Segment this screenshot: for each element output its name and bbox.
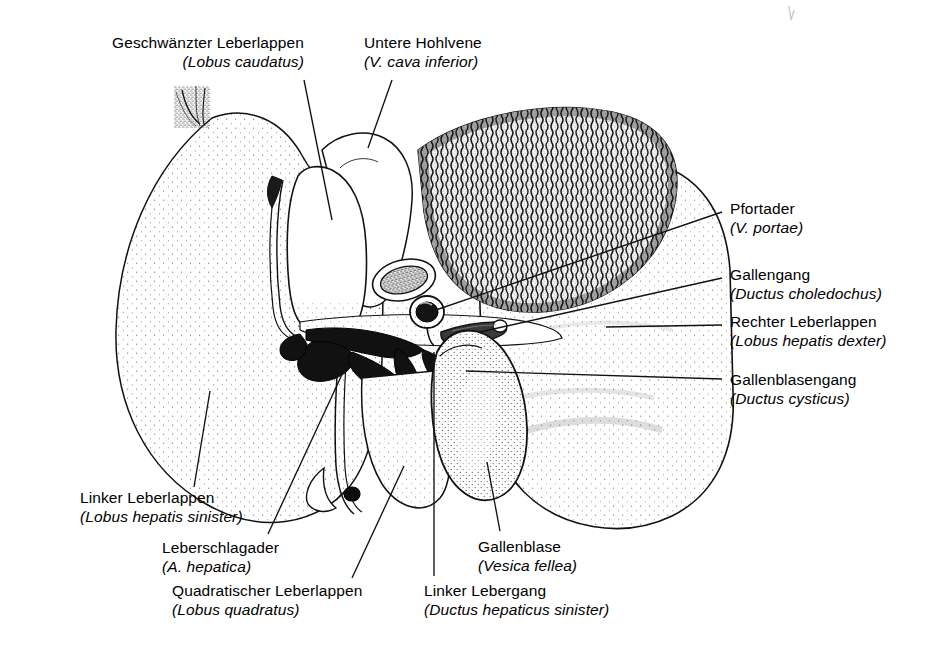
label-ductus-cysticus-latin: (Ductus cysticus) <box>730 390 857 409</box>
label-lobus-quadratus-latin: (Lobus quadratus) <box>172 601 362 620</box>
label-vesica-fellea-latin: (Vesica fellea) <box>478 557 577 576</box>
label-vena-portae-latin: (V. portae) <box>730 219 803 238</box>
label-arteria-hepatica: Leberschlagader(A. hepatica) <box>162 539 279 577</box>
label-ductus-choledochus-german: Gallengang <box>730 266 882 285</box>
label-vesica-fellea: Gallenblase(Vesica fellea) <box>478 538 577 576</box>
label-ductus-hepaticus-sinister: Linker Lebergang(Ductus hepaticus sinist… <box>424 582 609 620</box>
label-ductus-hepaticus-sinister-german: Linker Lebergang <box>424 582 609 601</box>
label-lobus-caudatus-german: Geschwänzter Leberlappen <box>112 34 304 53</box>
label-lobus-hepatis-sinister-german: Linker Leberlappen <box>80 489 243 508</box>
label-lobus-quadratus-german: Quadratischer Leberlappen <box>172 582 362 601</box>
label-vesica-fellea-german: Gallenblase <box>478 538 577 557</box>
label-vena-cava-inferior-german: Untere Hohlvene <box>364 34 482 53</box>
label-ductus-cysticus-german: Gallenblasengang <box>730 371 857 390</box>
label-lobus-caudatus: Geschwänzter Leberlappen(Lobus caudatus) <box>112 34 304 72</box>
label-lobus-caudatus-latin: (Lobus caudatus) <box>112 53 304 72</box>
label-vena-cava-inferior: Untere Hohlvene(V. cava inferior) <box>364 34 482 72</box>
label-ductus-hepaticus-sinister-latin: (Ductus hepaticus sinister) <box>424 601 609 620</box>
label-vena-portae-german: Pfortader <box>730 200 803 219</box>
label-lobus-hepatis-dexter: Rechter Leberlappen(Lobus hepatis dexter… <box>730 313 886 351</box>
label-lobus-hepatis-dexter-latin: (Lobus hepatis dexter) <box>730 332 886 351</box>
label-lobus-hepatis-dexter-german: Rechter Leberlappen <box>730 313 886 332</box>
label-ductus-choledochus: Gallengang(Ductus choledochus) <box>730 266 882 304</box>
label-ductus-choledochus-latin: (Ductus choledochus) <box>730 285 882 304</box>
label-lobus-quadratus: Quadratischer Leberlappen(Lobus quadratu… <box>172 582 362 620</box>
label-lobus-hepatis-sinister-latin: (Lobus hepatis sinister) <box>80 508 243 527</box>
label-vena-cava-inferior-latin: (V. cava inferior) <box>364 53 482 72</box>
label-vena-portae: Pfortader(V. portae) <box>730 200 803 238</box>
hepatic-artery-vessel <box>344 487 360 501</box>
label-arteria-hepatica-latin: (A. hepatica) <box>162 558 279 577</box>
fibrous-stalk <box>174 86 210 128</box>
label-lobus-hepatis-sinister: Linker Leberlappen(Lobus hepatis siniste… <box>80 489 243 527</box>
label-ductus-cysticus: Gallenblasengang(Ductus cysticus) <box>730 371 857 409</box>
label-arteria-hepatica-german: Leberschlagader <box>162 539 279 558</box>
